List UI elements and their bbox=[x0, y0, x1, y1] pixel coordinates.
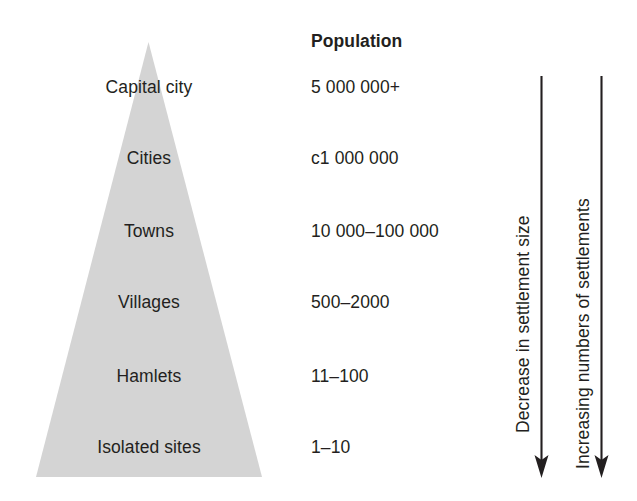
population-value-isolated-sites: 1–10 bbox=[311, 437, 350, 458]
tier-label-cities: Cities bbox=[0, 148, 298, 169]
tier-label-villages: Villages bbox=[0, 292, 298, 313]
arrow-decrease-settlement-size bbox=[535, 76, 549, 478]
population-value-cities: c1 000 000 bbox=[311, 148, 399, 169]
population-value-capital-city: 5 000 000+ bbox=[311, 77, 400, 98]
tier-label-hamlets: Hamlets bbox=[0, 366, 298, 387]
population-value-villages: 500–2000 bbox=[311, 292, 390, 313]
population-value-towns: 10 000–100 000 bbox=[311, 221, 439, 242]
tier-label-towns: Towns bbox=[0, 221, 298, 242]
arrow-increasing-number-settlements bbox=[595, 76, 609, 478]
population-value-hamlets: 11–100 bbox=[311, 366, 369, 387]
arrow-label-increasing-number-settlements: Increasing numbers of settlements bbox=[573, 198, 594, 469]
tier-label-capital-city: Capital city bbox=[0, 77, 298, 98]
tier-label-isolated-sites: Isolated sites bbox=[0, 437, 298, 458]
settlement-hierarchy-diagram: Capital city Cities Towns Villages Hamle… bbox=[0, 0, 637, 501]
diagram-canvas bbox=[0, 0, 637, 501]
arrow-label-decrease-settlement-size: Decrease in settlement size bbox=[513, 215, 534, 433]
population-column-header: Population bbox=[311, 31, 402, 52]
pyramid-shape bbox=[36, 42, 262, 477]
